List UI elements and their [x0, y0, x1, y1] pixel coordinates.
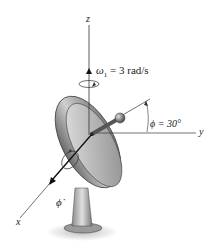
y-axis-label: y — [199, 126, 203, 137]
phi-dot-arrow-head — [49, 177, 56, 185]
phi-dot-label: ϕ̇ — [56, 196, 62, 208]
omega-symbol: ω — [96, 64, 104, 76]
z-axis-label: z — [86, 13, 90, 24]
feed-horn — [115, 113, 125, 123]
omega-subscript: 1 — [104, 71, 108, 79]
post — [72, 188, 92, 226]
omega-value: = 3 rad/s — [110, 64, 149, 76]
x-axis-label: x — [16, 216, 20, 227]
omega-arrow-head — [86, 68, 92, 74]
satellite-dish-diagram — [0, 0, 215, 249]
phi-arc-arrow — [144, 101, 148, 106]
phi-angle-label: ϕ = 30° — [150, 118, 181, 129]
z-rotation-arrow — [92, 82, 96, 87]
omega-label: ω1 = 3 rad/s — [96, 64, 149, 79]
